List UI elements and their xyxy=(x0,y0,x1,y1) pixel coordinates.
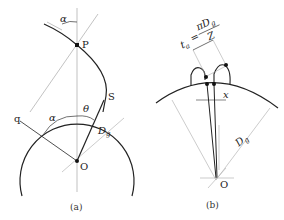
diagram-b: ta = πDg Z x Dg O (b) xyxy=(156,13,278,210)
label-s: S xyxy=(108,91,115,102)
label-x: x xyxy=(223,89,229,100)
formula-den: Z xyxy=(205,29,218,43)
point-o-a xyxy=(75,159,79,163)
label-p: P xyxy=(82,39,89,50)
dim-ext-right xyxy=(213,40,226,65)
label-q: q xyxy=(14,113,21,124)
theta-arc-a xyxy=(77,116,94,120)
pitch-connector-b xyxy=(205,66,226,77)
label-o-a: O xyxy=(80,161,88,172)
formula-eq: = xyxy=(188,30,200,44)
spiral-curve-a xyxy=(44,24,106,112)
dim-ext-left xyxy=(193,50,206,76)
diagram-a: α P S q α θ Dg O (a) xyxy=(14,8,134,212)
label-dg-a: Dg xyxy=(97,125,111,138)
dot-4-b xyxy=(224,63,228,67)
dot-3-b xyxy=(212,82,216,86)
diagram-canvas: α P S q α θ Dg O (a) xyxy=(0,0,284,220)
formula-lhs: ta xyxy=(178,37,191,52)
dot-2-b xyxy=(205,82,209,86)
label-o-b: O xyxy=(220,179,228,190)
diagram-svg: α P S q α θ Dg O (a) xyxy=(0,0,284,220)
dot-1-b xyxy=(204,75,208,79)
label-alpha-mid: α xyxy=(49,112,56,123)
label-theta: θ xyxy=(83,103,89,114)
label-dg-b: Dg xyxy=(232,132,251,151)
point-p xyxy=(75,43,79,47)
tangent-line-a xyxy=(30,14,98,112)
caption-a: (a) xyxy=(70,202,82,212)
caption-b: (b) xyxy=(206,200,219,210)
label-alpha-top: α xyxy=(60,13,67,24)
loop-right-b xyxy=(214,65,230,84)
